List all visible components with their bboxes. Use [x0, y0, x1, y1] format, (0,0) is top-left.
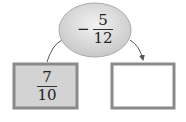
- operator-fraction: 5 12: [93, 13, 113, 46]
- output-value[interactable]: [115, 67, 171, 105]
- minus-sign: −: [77, 20, 90, 38]
- operator-numerator: 5: [98, 13, 108, 28]
- input-denominator: 10: [37, 88, 56, 103]
- arrow-line: [130, 40, 143, 60]
- connector-line: [47, 40, 62, 62]
- input-numerator: 7: [42, 70, 52, 85]
- input-fraction: 7 10: [37, 70, 57, 103]
- operator-denominator: 12: [93, 31, 112, 46]
